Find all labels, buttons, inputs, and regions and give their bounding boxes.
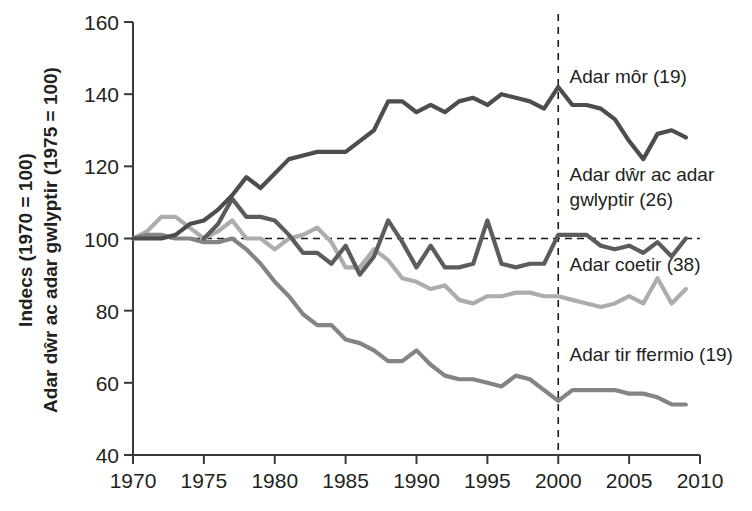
y-tick-label: 160	[84, 11, 119, 34]
x-tick-label: 1990	[393, 469, 440, 492]
line-chart: 4060801001201401601970197519801985199019…	[0, 0, 752, 511]
series-label-1: Adar môr (19)	[570, 66, 687, 87]
x-tick-label: 2005	[606, 469, 653, 492]
x-tick-label: 1980	[251, 469, 298, 492]
series-label-4: Adar tir ffermio (19)	[570, 344, 733, 365]
y-tick-label: 40	[96, 444, 119, 467]
series-label-2: Adar dŵr ac adar	[570, 164, 715, 185]
y-axis-title-line1: Indecs (1970 = 100)	[15, 153, 36, 327]
series-labels-group: Adar môr (19)Adar dŵr ac adargwlyptir (2…	[570, 66, 733, 365]
y-tick-label: 80	[96, 300, 119, 323]
y-tick-label: 140	[84, 83, 119, 106]
series-line-1	[133, 87, 686, 239]
x-tick-label: 2000	[535, 469, 582, 492]
x-tick-label: 1995	[464, 469, 511, 492]
x-tick-label: 1985	[322, 469, 369, 492]
series-label-2-line2: gwlyptir (26)	[570, 189, 673, 210]
y-axis-title-line2: Adar dŵr ac adar gwlyptir (1975 = 100)	[40, 67, 61, 413]
chart-container: 4060801001201401601970197519801985199019…	[0, 0, 752, 511]
y-tick-label: 120	[84, 155, 119, 178]
y-tick-label: 100	[84, 228, 119, 251]
y-axis-title: Indecs (1970 = 100)Adar dŵr ac adar gwly…	[15, 67, 61, 413]
y-tick-label: 60	[96, 372, 119, 395]
x-tick-label: 1975	[181, 469, 228, 492]
series-label-3: Adar coetir (38)	[570, 254, 701, 275]
x-tick-label: 2010	[677, 469, 724, 492]
x-tick-label: 1970	[110, 469, 157, 492]
